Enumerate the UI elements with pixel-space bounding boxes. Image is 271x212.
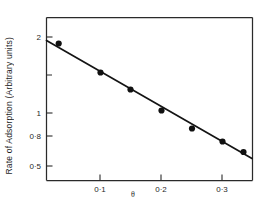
- data-point: [127, 86, 133, 92]
- data-point: [189, 125, 195, 131]
- x-tick-label-0-2: 0·2: [155, 185, 167, 194]
- data-point: [56, 40, 62, 46]
- plot-area: 2 1 0·8 0·5 0·1 0·2 0·3 θ: [0, 0, 271, 212]
- data-point: [97, 69, 103, 75]
- y-tick-label-2: 2: [37, 33, 42, 42]
- data-point: [240, 149, 246, 155]
- x-tick-label-0-3: 0·3: [216, 185, 228, 194]
- data-point: [219, 138, 225, 144]
- y-tick-label-1: 1: [37, 109, 42, 118]
- chart-figure: Rate of Adsorption (Arbitrary units) 2 1…: [0, 0, 271, 212]
- y-tick-label-0-5: 0·5: [29, 162, 41, 171]
- data-point: [158, 107, 164, 113]
- x-axis-title: θ: [131, 190, 135, 199]
- y-tick-label-0-8: 0·8: [29, 132, 41, 141]
- x-tick-label-0-1: 0·1: [94, 185, 106, 194]
